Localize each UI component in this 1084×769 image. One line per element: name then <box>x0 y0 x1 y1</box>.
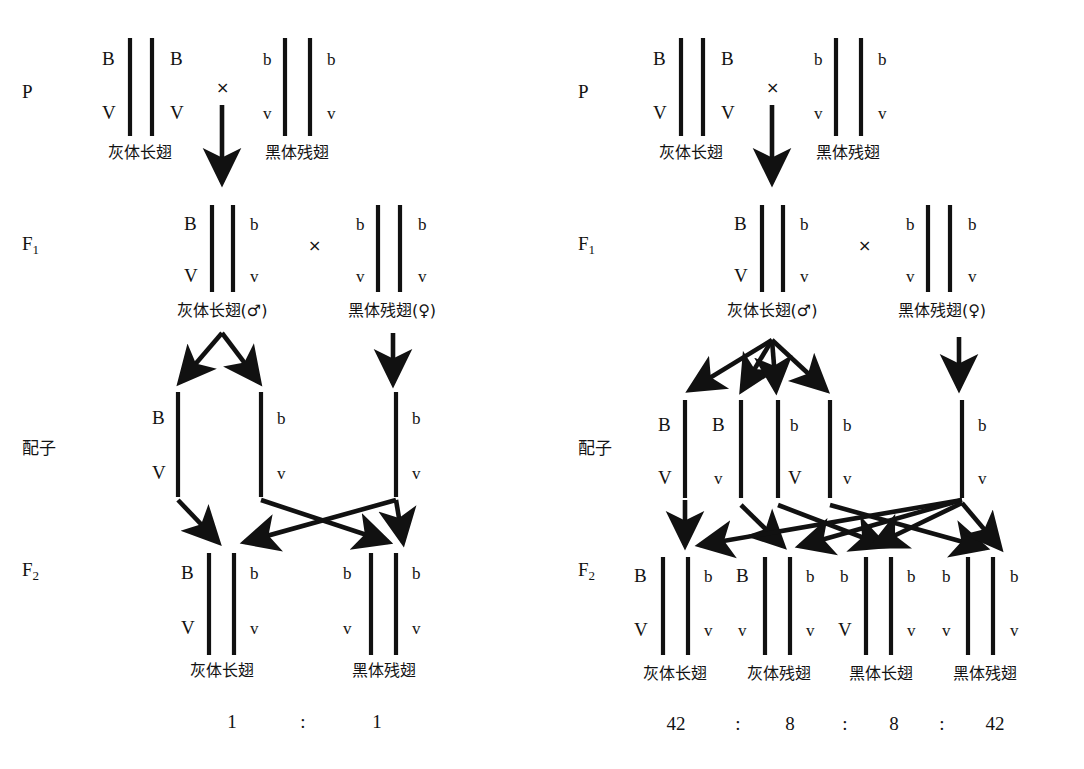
allele-f1-male-right-bottom-r: v <box>800 268 809 285</box>
gamete-left-m1-bottom: V <box>152 463 166 482</box>
allele-p-male-left-top: B <box>102 49 115 68</box>
allele-p-female-left-bottom: v <box>263 105 272 122</box>
phenotype-p-male-left: 灰体长翅 <box>108 145 172 161</box>
phenotype-f2-right-2: 灰体残翅 <box>747 666 811 682</box>
phenotype-p-male-right: 灰体长翅 <box>659 145 723 161</box>
inheritance-arrows <box>178 105 1000 548</box>
allele-p-female-right-bottom-r: v <box>878 105 887 122</box>
diagram-graphics-layer <box>0 0 1084 769</box>
f2-left-o2-left-bottom: v <box>343 620 352 637</box>
ratio-right-value-3: 8 <box>889 714 899 733</box>
cross-symbol-p-left: × <box>216 80 229 96</box>
f2-left-o1-left-top: B <box>181 563 194 582</box>
allele-p-female-right-top: b <box>327 51 336 68</box>
phenotype-f1-female-right: 黑体残翅(♀) <box>898 303 986 319</box>
genetics-diagram: P F1 配子 F2 B V B V × b v b v 灰体长翅 黑体残翅 B… <box>0 0 1084 769</box>
allele-f1-male-right-top-r: b <box>800 216 809 233</box>
phenotype-p-female-right: 黑体残翅 <box>816 145 880 161</box>
cross-symbol-p-right: × <box>766 80 779 96</box>
ratio-right-sep-3: : <box>939 714 944 733</box>
allele-f1-female-left-top: b <box>356 216 365 233</box>
f2-left-o2-right-top: b <box>412 565 421 582</box>
f2-left-o1-right-bottom: v <box>250 620 259 637</box>
f2-left-o2-right-bottom: v <box>412 620 421 637</box>
allele-p-male-right-bottom: V <box>170 103 184 122</box>
phenotype-f2-right-1: 灰体长翅 <box>643 666 707 682</box>
f2-right-o3-left-bottom: V <box>838 620 852 639</box>
gamete-left-m1-top: B <box>152 408 165 427</box>
f2-right-o2-right-bottom: v <box>806 622 815 639</box>
ratio-right-sep-1: : <box>735 714 740 733</box>
f2-right-o2-right-top: b <box>806 568 815 585</box>
allele-f1-female-left-bottom: v <box>356 268 365 285</box>
gamete-left-f1-top: b <box>412 410 421 427</box>
allele-f1-male-left-bottom-r: V <box>734 266 748 285</box>
allele-f1-female-left-bottom-r: v <box>906 268 915 285</box>
gamete-right-m2-bottom: v <box>714 470 723 487</box>
stage-label-f2-right: F2 <box>578 560 595 582</box>
allele-p-male-right-top-r: B <box>721 49 734 68</box>
f2-right-o3-left-top: b <box>840 568 849 585</box>
allele-f1-male-right-top: b <box>250 216 259 233</box>
phenotype-f1-male-right: 灰体长翅(♂) <box>727 303 818 319</box>
gamete-right-m2-top: B <box>712 415 725 434</box>
ratio-left-value-1: 1 <box>227 712 237 731</box>
phenotype-f2-left-2: 黑体残翅 <box>352 663 416 679</box>
allele-f1-male-left-top: B <box>184 214 197 233</box>
gamete-left-m2-top: b <box>277 410 286 427</box>
f2-right-o4-left-top: b <box>942 568 951 585</box>
cross-symbol-f1-right: × <box>858 238 871 254</box>
gamete-right-m4-bottom: v <box>843 470 852 487</box>
stage-label-f1-left: F1 <box>22 234 39 256</box>
allele-f1-female-left-top-r: b <box>906 216 915 233</box>
chromosome-bars <box>130 38 993 655</box>
f2-right-o1-left-top: B <box>634 566 647 585</box>
f2-right-o3-right-top: b <box>907 568 916 585</box>
ratio-right-value-4: 42 <box>986 714 1005 733</box>
allele-p-female-left-bottom-r: v <box>814 105 823 122</box>
phenotype-f1-female-left: 黑体残翅(♀) <box>348 303 436 319</box>
f2-left-o2-left-top: b <box>343 565 352 582</box>
stage-label-f2-left: F2 <box>22 560 39 582</box>
phenotype-f1-male-left: 灰体长翅(♂) <box>177 303 268 319</box>
f2-right-o4-left-bottom: v <box>942 622 951 639</box>
ratio-right-value-2: 8 <box>785 714 795 733</box>
f2-right-o3-right-bottom: v <box>907 622 916 639</box>
phenotype-p-female-left: 黑体残翅 <box>265 145 329 161</box>
stage-label-gametes-left: 配子 <box>22 440 56 457</box>
f2-right-o1-right-top: b <box>704 568 713 585</box>
gamete-right-m4-top: b <box>843 417 852 434</box>
gamete-right-m3-top: b <box>790 417 799 434</box>
allele-p-male-right-top: B <box>170 49 183 68</box>
stage-label-gametes-right: 配子 <box>578 440 612 457</box>
f2-right-o2-left-bottom: v <box>738 622 747 639</box>
f2-right-o1-right-bottom: v <box>704 622 713 639</box>
gamete-right-f1-top: b <box>978 417 987 434</box>
allele-p-male-right-bottom-r: V <box>721 103 735 122</box>
f2-right-o1-left-bottom: V <box>634 620 648 639</box>
allele-f1-male-left-bottom: V <box>184 266 198 285</box>
stage-label-p-right: P <box>578 82 589 101</box>
allele-f1-female-right-top-r: b <box>968 216 977 233</box>
gamete-left-m2-bottom: v <box>277 465 286 482</box>
f2-right-o4-right-bottom: v <box>1010 622 1019 639</box>
allele-f1-female-right-bottom: v <box>418 268 427 285</box>
phenotype-f2-right-3: 黑体长翅 <box>849 666 913 682</box>
f2-left-o1-left-bottom: V <box>181 618 195 637</box>
gamete-right-m1-top: B <box>658 415 671 434</box>
ratio-right-value-1: 42 <box>667 714 686 733</box>
gamete-right-m1-bottom: V <box>658 468 672 487</box>
allele-p-female-right-bottom: v <box>327 105 336 122</box>
allele-p-female-right-top-r: b <box>878 51 887 68</box>
stage-label-p-left: P <box>22 82 33 101</box>
gamete-right-m3-bottom: V <box>788 468 802 487</box>
ratio-right-sep-2: : <box>842 714 847 733</box>
ratio-left-sep-1: : <box>300 712 305 731</box>
allele-p-female-left-top-r: b <box>814 51 823 68</box>
allele-p-male-left-bottom-r: V <box>653 103 667 122</box>
gamete-right-f1-bottom: v <box>978 470 987 487</box>
f2-right-o4-right-top: b <box>1010 568 1019 585</box>
ratio-left-value-2: 1 <box>372 712 382 731</box>
allele-p-male-left-bottom: V <box>102 103 116 122</box>
allele-f1-female-right-top: b <box>418 216 427 233</box>
